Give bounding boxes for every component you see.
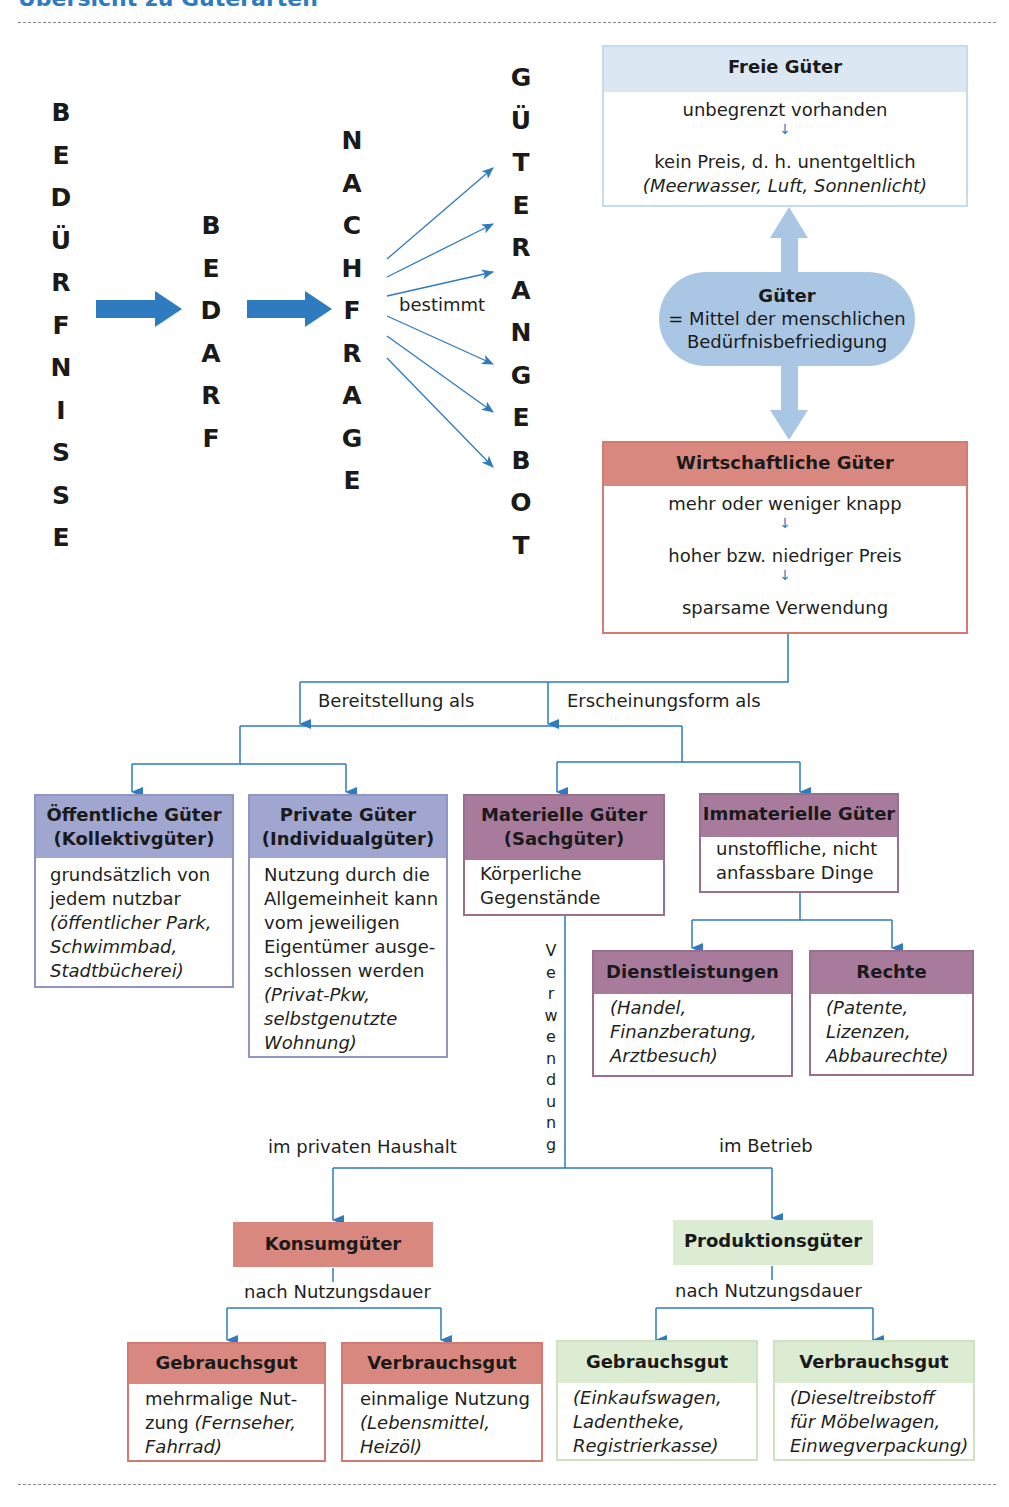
produktionsgueter-title: Produktionsgüter bbox=[673, 1220, 873, 1262]
wirtschaftliche-gueter-box: Wirtschaftliche Güter mehr oder weniger … bbox=[602, 441, 968, 634]
prod-gebrauchsgut-ex2: Ladentheke, bbox=[573, 1410, 756, 1434]
nutzungsdauer-left-label: nach Nutzungsdauer bbox=[244, 1281, 431, 1302]
private-line1: Nutzung durch die bbox=[264, 863, 446, 887]
rechte-box: Rechte (Patente, Lizenzen, Abbaurechte) bbox=[809, 950, 974, 1076]
dienstleistungen-ex1: (Handel, bbox=[610, 996, 791, 1020]
rechte-ex3: Abbaurechte) bbox=[826, 1044, 972, 1068]
private-ex3: Wohnung) bbox=[264, 1031, 446, 1055]
bedarf-word: BEDARF bbox=[198, 205, 224, 460]
produktionsgueter-box: Produktionsgüter bbox=[673, 1220, 873, 1265]
freie-gueter-line2: kein Preis, d. h. unentgeltlich bbox=[604, 150, 966, 174]
arrow-down-icon: ↓ bbox=[604, 516, 966, 544]
materielle-line2: Gegenstände bbox=[480, 886, 663, 910]
prod-verbrauchsgut-box: Verbrauchsgut (Dieseltreibstoff für Möbe… bbox=[773, 1340, 975, 1461]
dienstleistungen-box: Dienstleistungen (Handel, Finanzberatung… bbox=[592, 950, 793, 1077]
materielle-gueter-box: Materielle Güter (Sachgüter) Körperliche… bbox=[463, 794, 665, 916]
oeffentliche-title2: (Kollektivgüter) bbox=[36, 827, 232, 851]
wirtschaftliche-line2: hoher bzw. niedriger Preis bbox=[604, 544, 966, 568]
private-line4: Eigentümer ausge- bbox=[264, 935, 446, 959]
arrow-bedarf-nachfrage-icon bbox=[247, 291, 332, 327]
oeffentliche-gueter-box: Öffentliche Güter (Kollektivgüter) grund… bbox=[34, 794, 234, 988]
private-line5: schlossen werden bbox=[264, 959, 446, 983]
konsum-verbrauchsgut-ex2: Heizöl) bbox=[360, 1435, 541, 1459]
private-ex1: (Privat-Pkw, bbox=[264, 983, 446, 1007]
prod-gebrauchsgut-ex3: Registrierkasse) bbox=[573, 1434, 756, 1458]
oeffentliche-ex3: Stadtbücherei) bbox=[50, 959, 232, 983]
arrow-down-icon: ↓ bbox=[604, 568, 966, 596]
konsum-verbrauchsgut-line1: einmalige Nutzung bbox=[360, 1387, 541, 1411]
konsum-gebrauchsgut-box: Gebrauchsgut mehrmalige Nut- zung (Ferns… bbox=[127, 1342, 326, 1462]
materielle-title1: Materielle Güter bbox=[465, 803, 663, 827]
bereitstellung-label: Bereitstellung als bbox=[318, 690, 474, 711]
beduerfnisse-word: BEDÜRFNISSE bbox=[48, 92, 74, 560]
dienstleistungen-ex3: Arztbesuch) bbox=[610, 1044, 791, 1068]
materielle-title2: (Sachgüter) bbox=[465, 827, 663, 851]
private-line2: Allgemeinheit kann bbox=[264, 887, 446, 911]
konsum-gebrauchsgut-title: Gebrauchsgut bbox=[129, 1344, 324, 1384]
prod-gebrauchsgut-title: Gebrauchsgut bbox=[558, 1342, 756, 1383]
immaterielle-title: Immaterielle Güter bbox=[701, 795, 897, 837]
immaterielle-line2: anfassbare Dinge bbox=[716, 861, 897, 885]
prod-verbrauchsgut-ex2: für Möbelwagen, bbox=[790, 1410, 973, 1434]
prod-verbrauchsgut-ex3: Einwegverpackung) bbox=[790, 1434, 973, 1458]
konsum-verbrauchsgut-box: Verbrauchsgut einmalige Nutzung (Lebensm… bbox=[341, 1342, 543, 1462]
wirtschaftliche-line3: sparsame Verwendung bbox=[604, 596, 966, 620]
nachfrage-word: NACHFRAGE bbox=[339, 120, 365, 503]
arrow-beduerfnisse-bedarf-icon bbox=[96, 291, 182, 327]
wirtschaftliche-line1: mehr oder weniger knapp bbox=[604, 492, 966, 516]
rechte-title: Rechte bbox=[811, 952, 972, 994]
konsum-gebrauchsgut-ex3: Fahrrad) bbox=[145, 1435, 324, 1459]
oeffentliche-line1: grundsätzlich von bbox=[50, 863, 232, 887]
private-gueter-box: Private Güter (Individualgüter) Nutzung … bbox=[248, 794, 448, 1058]
nutzungsdauer-right-label: nach Nutzungsdauer bbox=[675, 1280, 862, 1301]
arrow-down-icon: ↓ bbox=[604, 122, 966, 150]
immaterielle-line1: unstoffliche, nicht bbox=[716, 837, 897, 861]
dienstleistungen-title: Dienstleistungen bbox=[594, 952, 791, 994]
gueter-pill: Güter = Mittel der menschlichen Bedürfni… bbox=[659, 272, 915, 366]
oeffentliche-title1: Öffentliche Güter bbox=[36, 803, 232, 827]
immaterielle-gueter-box: Immaterielle Güter unstoffliche, nicht a… bbox=[699, 793, 899, 893]
prod-gebrauchsgut-ex1: (Einkaufswagen, bbox=[573, 1386, 756, 1410]
konsum-gebrauchsgut-line1: mehrmalige Nut- bbox=[145, 1387, 324, 1411]
private-title2: (Individualgüter) bbox=[250, 827, 446, 851]
private-title1: Private Güter bbox=[250, 803, 446, 827]
konsumgueter-box: Konsumgüter bbox=[233, 1222, 433, 1267]
konsum-verbrauchsgut-ex1: (Lebensmittel, bbox=[360, 1411, 541, 1435]
privater-haushalt-label: im privaten Haushalt bbox=[268, 1136, 457, 1157]
oeffentliche-line2: jedem nutzbar bbox=[50, 887, 232, 911]
prod-verbrauchsgut-ex1: (Dieseltreibstoff bbox=[790, 1386, 973, 1410]
gueter-line1: = Mittel der menschlichen bbox=[659, 307, 915, 330]
konsum-verbrauchsgut-title: Verbrauchsgut bbox=[343, 1344, 541, 1384]
private-line3: vom jeweiligen bbox=[264, 911, 446, 935]
private-ex2: selbstgenutzte bbox=[264, 1007, 446, 1031]
wirtschaftliche-gueter-title: Wirtschaftliche Güter bbox=[604, 443, 966, 486]
freie-gueter-examples: (Meerwasser, Luft, Sonnenlicht) bbox=[604, 174, 966, 198]
betrieb-label: im Betrieb bbox=[719, 1135, 813, 1156]
gueterangebot-word: GÜTERANGEBOT bbox=[507, 57, 535, 567]
rechte-ex2: Lizenzen, bbox=[826, 1020, 972, 1044]
materielle-line1: Körperliche bbox=[480, 862, 663, 886]
gueter-line2: Bedürfnisbefriedigung bbox=[659, 330, 915, 353]
oeffentliche-ex2: Schwimmbad, bbox=[50, 935, 232, 959]
verwendung-label: Verwendung bbox=[540, 940, 562, 1155]
bestimmt-label: bestimmt bbox=[399, 294, 485, 315]
rechte-ex1: (Patente, bbox=[826, 996, 972, 1020]
freie-gueter-line1: unbegrenzt vorhanden bbox=[604, 98, 966, 122]
prod-gebrauchsgut-box: Gebrauchsgut (Einkaufswagen, Ladentheke,… bbox=[556, 1340, 758, 1461]
prod-verbrauchsgut-title: Verbrauchsgut bbox=[775, 1342, 973, 1383]
konsum-gebrauchsgut-line2: zung (Fernseher, bbox=[145, 1411, 324, 1435]
oeffentliche-ex1: (öffentlicher Park, bbox=[50, 911, 232, 935]
freie-gueter-box: Freie Güter unbegrenzt vorhanden ↓ kein … bbox=[602, 45, 968, 207]
erscheinungsform-label: Erscheinungsform als bbox=[567, 690, 761, 711]
freie-gueter-title: Freie Güter bbox=[604, 47, 966, 92]
konsumgueter-title: Konsumgüter bbox=[233, 1222, 433, 1266]
gueter-title: Güter bbox=[659, 284, 915, 307]
dienstleistungen-ex2: Finanzberatung, bbox=[610, 1020, 791, 1044]
